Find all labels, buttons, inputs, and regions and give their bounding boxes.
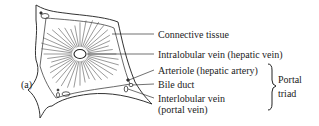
portal-triad-top-left <box>40 12 49 19</box>
label-portal-vein: (portal vein) <box>158 104 208 115</box>
label-bile-duct: Bile duct <box>158 79 194 90</box>
sinusoid-line <box>71 29 78 47</box>
sinusoid-line <box>74 61 79 87</box>
label-triad: triad <box>278 88 296 99</box>
sinusoid-line <box>81 61 85 82</box>
sinusoid-line <box>52 30 74 49</box>
panel-label: (a) <box>21 79 32 90</box>
sinusoid-line <box>88 56 119 65</box>
sinusoid-line <box>41 49 72 53</box>
sinusoid-line <box>88 49 113 52</box>
sinusoid-line <box>82 61 89 79</box>
lobule-inner-outline <box>40 18 130 98</box>
sinusoid-line <box>47 55 72 58</box>
sinusoid-line <box>86 30 108 49</box>
sinusoid-line <box>82 20 92 47</box>
sinusoid-line <box>41 43 72 52</box>
sinusoid-line <box>88 55 119 59</box>
label-portal: Portal <box>278 74 302 85</box>
sinusoid-line <box>81 20 86 46</box>
label-connective-tissue: Connective tissue <box>158 29 229 40</box>
sinusoid-line <box>86 59 108 78</box>
label-arteriole: Arteriole (hepatic artery) <box>158 65 258 76</box>
label-intralobular-vein: Intralobular vein (hepatic vein) <box>158 49 283 60</box>
central-vein <box>74 50 86 59</box>
sinusoid-line <box>75 26 79 47</box>
leader-lines <box>87 34 154 98</box>
label-interlobular-vein: Interlobular vein <box>158 93 225 104</box>
sinusoid-line <box>67 61 77 88</box>
portal-triad-brace <box>268 64 276 110</box>
sinusoid-line <box>52 59 74 78</box>
